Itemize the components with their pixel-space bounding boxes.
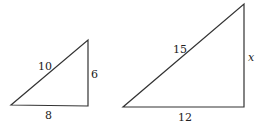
small-vertical-leg-label: 6 <box>91 68 98 81</box>
triangles-diagram: 10 6 8 15 x 12 <box>0 0 261 127</box>
large-horizontal-leg-label: 12 <box>178 111 192 124</box>
large-triangle: 15 x 12 <box>123 4 255 124</box>
small-triangle: 10 6 8 <box>11 40 98 122</box>
small-hypotenuse-label: 10 <box>38 60 52 73</box>
small-triangle-shape <box>11 40 88 106</box>
small-horizontal-leg-label: 8 <box>45 109 52 122</box>
large-hypotenuse-label: 15 <box>173 43 187 56</box>
large-vertical-leg-label: x <box>248 51 255 64</box>
